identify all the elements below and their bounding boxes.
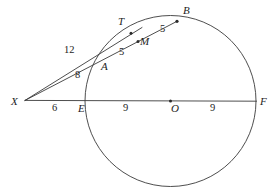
measure-label-xe: 6 (52, 103, 57, 114)
measure-label-mb: 5 (160, 24, 165, 35)
point-label-x: X (11, 96, 18, 107)
point-label-t: T (118, 16, 124, 27)
measure-label-xa: 8 (75, 70, 80, 81)
measure-label-xt: 12 (64, 45, 75, 56)
measure-label-of: 9 (210, 103, 215, 114)
dot-point-b (175, 20, 178, 23)
dot-point-t (130, 32, 133, 35)
line-xf (25, 100, 257, 101)
point-label-m: M (140, 36, 149, 47)
point-label-f: F (260, 96, 267, 107)
point-label-b: B (183, 5, 190, 16)
measure-label-am: 5 (119, 47, 124, 58)
geometry-canvas (0, 0, 278, 190)
point-label-e: E (78, 103, 85, 114)
geometry-diagram: X E O F T A M B 12 8 5 5 6 9 9 (0, 0, 278, 190)
line-xt-tangent (25, 28, 142, 101)
point-label-o: O (171, 103, 179, 114)
point-label-a: A (101, 61, 108, 72)
measure-label-eo: 9 (123, 103, 128, 114)
